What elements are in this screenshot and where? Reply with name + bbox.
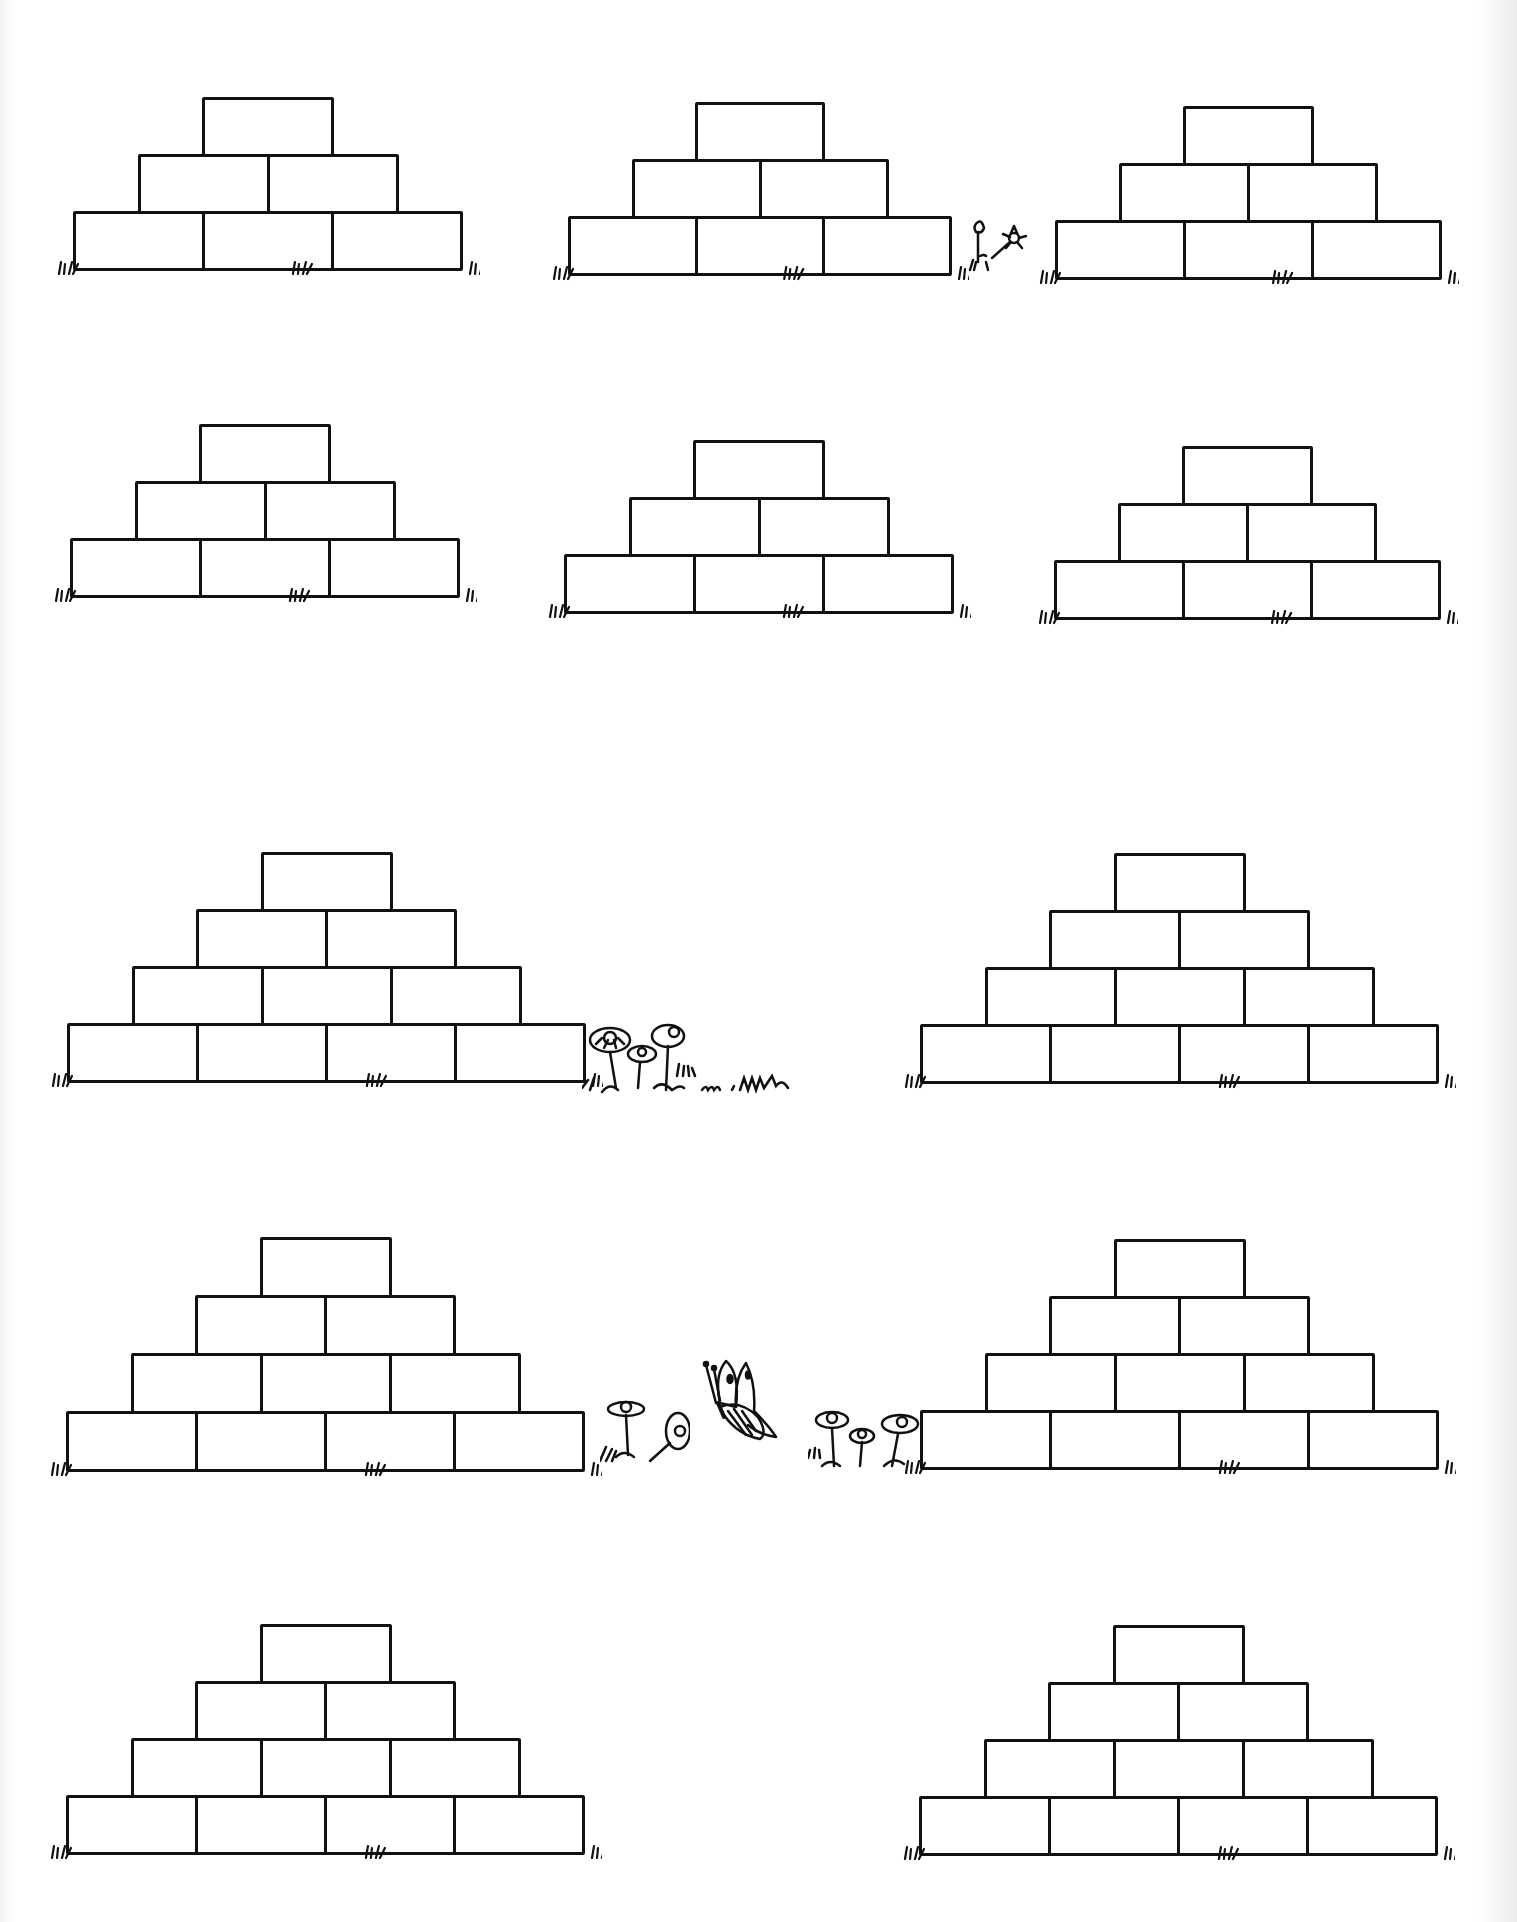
grass-icon xyxy=(53,256,480,276)
blank-brick-cell[interactable] xyxy=(758,497,890,557)
brick-pyramid xyxy=(70,424,457,595)
blank-brick-cell[interactable] xyxy=(1178,1296,1310,1356)
grass-icon xyxy=(1034,605,1458,625)
brick-pyramid xyxy=(73,97,460,268)
blank-brick-cell[interactable] xyxy=(260,1237,392,1298)
blank-brick-cell[interactable] xyxy=(195,1295,327,1356)
flower-icon xyxy=(582,1018,842,1096)
blank-brick-cell[interactable] xyxy=(325,909,457,969)
blank-brick-cell[interactable] xyxy=(1246,503,1377,563)
blank-brick-cell[interactable] xyxy=(632,159,762,219)
blank-brick-cell[interactable] xyxy=(1243,1353,1375,1413)
blank-brick-cell[interactable] xyxy=(131,1353,263,1414)
grass-icon xyxy=(900,1455,1456,1475)
blank-brick-cell[interactable] xyxy=(132,966,264,1026)
brick-pyramid xyxy=(564,440,951,611)
blank-brick-cell[interactable] xyxy=(324,1681,456,1741)
blank-brick-cell[interactable] xyxy=(1247,163,1378,223)
blank-brick-cell[interactable] xyxy=(985,1353,1117,1413)
flower-icon xyxy=(966,212,1036,272)
blank-brick-cell[interactable] xyxy=(985,967,1117,1027)
blank-brick-cell[interactable] xyxy=(1114,1353,1246,1413)
blank-brick-cell[interactable] xyxy=(131,1738,263,1798)
brick-pyramid xyxy=(67,852,583,1080)
grass-icon xyxy=(544,599,971,619)
blank-brick-cell[interactable] xyxy=(759,159,889,219)
blank-brick-cell[interactable] xyxy=(1118,503,1249,563)
blank-brick-cell[interactable] xyxy=(202,97,334,157)
brick-pyramid xyxy=(920,853,1436,1081)
blank-brick-cell[interactable] xyxy=(695,102,825,162)
page-edge-shadow-left xyxy=(0,0,14,1922)
brick-pyramid xyxy=(66,1237,582,1469)
blank-brick-cell[interactable] xyxy=(389,1738,521,1798)
blank-brick-cell[interactable] xyxy=(1049,910,1181,970)
butterfly-icon xyxy=(690,1355,800,1455)
blank-brick-cell[interactable] xyxy=(1114,1239,1246,1299)
grass-icon xyxy=(47,1068,603,1088)
blank-brick-cell[interactable] xyxy=(629,497,761,557)
page-edge-shadow-right xyxy=(1477,0,1517,1922)
flower-icon xyxy=(600,1395,690,1465)
blank-brick-cell[interactable] xyxy=(135,481,267,541)
blank-brick-cell[interactable] xyxy=(1242,1739,1374,1799)
blank-brick-cell[interactable] xyxy=(264,481,396,541)
blank-brick-cell[interactable] xyxy=(1119,163,1250,223)
grass-icon xyxy=(50,583,477,603)
grass-icon xyxy=(899,1841,1455,1861)
blank-brick-cell[interactable] xyxy=(1178,910,1310,970)
blank-brick-cell[interactable] xyxy=(1183,106,1314,166)
blank-brick-cell[interactable] xyxy=(260,1353,392,1414)
blank-brick-cell[interactable] xyxy=(390,966,522,1026)
grass-icon xyxy=(46,1840,602,1860)
blank-brick-cell[interactable] xyxy=(1114,967,1246,1027)
grass-icon xyxy=(548,261,969,281)
grass-icon xyxy=(1035,265,1459,285)
grass-icon xyxy=(900,1069,1456,1089)
blank-brick-cell[interactable] xyxy=(324,1295,456,1356)
blank-brick-cell[interactable] xyxy=(1048,1682,1180,1742)
blank-brick-cell[interactable] xyxy=(984,1739,1116,1799)
brick-pyramid xyxy=(920,1239,1436,1467)
brick-pyramid xyxy=(919,1625,1435,1853)
blank-brick-cell[interactable] xyxy=(199,424,331,484)
blank-brick-cell[interactable] xyxy=(1113,1625,1245,1685)
flower-icon xyxy=(808,1408,928,1470)
blank-brick-cell[interactable] xyxy=(1182,446,1313,506)
blank-brick-cell[interactable] xyxy=(195,1681,327,1741)
blank-brick-cell[interactable] xyxy=(1113,1739,1245,1799)
grass-icon xyxy=(46,1457,602,1477)
blank-brick-cell[interactable] xyxy=(261,852,393,912)
blank-brick-cell[interactable] xyxy=(260,1624,392,1684)
brick-pyramid xyxy=(1054,446,1438,617)
blank-brick-cell[interactable] xyxy=(261,966,393,1026)
blank-brick-cell[interactable] xyxy=(1177,1682,1309,1742)
blank-brick-cell[interactable] xyxy=(1243,967,1375,1027)
blank-brick-cell[interactable] xyxy=(1114,853,1246,913)
blank-brick-cell[interactable] xyxy=(138,154,270,214)
brick-pyramid xyxy=(66,1624,582,1852)
brick-pyramid xyxy=(568,102,949,273)
blank-brick-cell[interactable] xyxy=(196,909,328,969)
blank-brick-cell[interactable] xyxy=(1049,1296,1181,1356)
blank-brick-cell[interactable] xyxy=(693,440,825,500)
blank-brick-cell[interactable] xyxy=(389,1353,521,1414)
blank-brick-cell[interactable] xyxy=(260,1738,392,1798)
brick-pyramid xyxy=(1055,106,1439,277)
blank-brick-cell[interactable] xyxy=(267,154,399,214)
